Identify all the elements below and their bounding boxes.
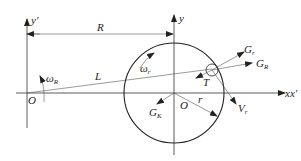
G-K-vector [157,93,174,104]
origin-O-label: O [28,94,36,106]
G-r-label: Gr [244,43,255,57]
center-O-label: O [180,99,188,111]
radius-r-label: r [198,93,203,105]
y-prime-label: y' [30,14,39,26]
omega-r-label: ωr [140,62,151,76]
omega-R-label: ωR [46,72,59,86]
G-K-label: GK [149,106,162,120]
R-label: R [96,21,104,33]
wheel-kinematics-diagram: y' R y xx' O ωR L ωr Gr [0,0,301,161]
G-R-label: GR [256,57,269,71]
y-label: y [178,12,184,24]
xx-prime-label: xx' [284,87,298,99]
omega-R-rotation-arrow [40,76,44,102]
L-label: L [94,70,101,82]
V-r-label: Vr [238,102,248,116]
T-label: T [203,76,210,88]
